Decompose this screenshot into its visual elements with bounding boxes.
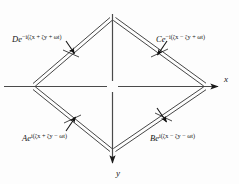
wave-amplitude-A: Ae [22,133,31,143]
y-axis-label: y [116,168,120,178]
wave-label-A: Aei(ζx + ζy − ωt) [22,128,67,144]
wave-ray-D-edge-outer [33,18,110,84]
wave-label-D: De−i(ζx + ζy + ωt) [12,29,62,45]
wave-exponent-C: −i(ζx − ζy + ωt) [165,33,205,40]
direction-arrow-D [63,41,79,57]
diagram-svg [0,0,239,184]
figure-canvas: De−i(ζx + ζy + ωt) Ce−i(ζx − ζy + ωt) Ae… [0,0,239,184]
wave-label-C: Ce−i(ζx − ζy + ωt) [156,29,205,45]
wave-exponent-A: i(ζx + ζy − ωt) [31,132,67,139]
wave-amplitude-D: De [12,34,22,44]
direction-arrow-A-shaft [66,117,76,131]
wave-exponent-B: i(ζx − ζy − ωt) [159,132,195,139]
wave-label-B: Bei(ζx − ζy − ωt) [150,128,195,144]
wave-ray-D [33,18,112,87]
wave-exponent-D: −i(ζx + ζy + ωt) [22,33,62,40]
wave-amplitude-B: Be [150,133,159,143]
x-axis-label: x [224,74,228,84]
